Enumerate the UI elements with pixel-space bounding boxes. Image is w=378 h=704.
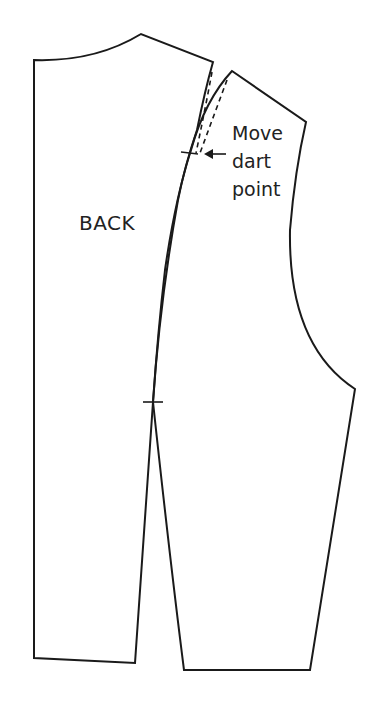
annotation-line-1: Move: [232, 122, 283, 144]
annotation-line-2: dart: [232, 150, 271, 172]
back-label: BACK: [79, 211, 136, 235]
pattern-diagram: BACK Move dart point: [0, 0, 378, 704]
annotation-line-3: point: [232, 178, 280, 200]
back-pattern-piece: [34, 34, 213, 663]
arrow-head-icon: [204, 149, 213, 159]
